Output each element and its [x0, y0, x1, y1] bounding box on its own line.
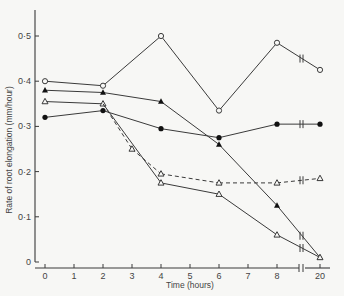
x-tick-label: 8 — [274, 271, 279, 281]
series-line — [161, 183, 219, 194]
series-line — [103, 104, 132, 149]
open-triangle-marker — [42, 98, 48, 103]
open-circle-marker — [158, 33, 163, 38]
series-0 — [42, 33, 322, 113]
open-circle-marker — [42, 79, 47, 84]
filled-circle-marker — [42, 115, 47, 120]
series-line — [103, 36, 161, 86]
y-tick-label: 0·4 — [18, 76, 31, 86]
series-line — [277, 43, 320, 70]
filled-circle-marker — [158, 126, 163, 131]
series-line — [219, 194, 277, 235]
open-circle-marker — [274, 40, 279, 45]
filled-circle-marker — [317, 122, 322, 127]
x-axis-title: Time (hours) — [166, 280, 214, 290]
y-tick-label: 0·2 — [18, 167, 31, 177]
series-line — [45, 102, 103, 104]
series-line — [45, 111, 103, 118]
series-line — [161, 174, 219, 183]
root-elongation-chart: 00·10·20·30·40·501234567820 Time (hours)… — [0, 0, 344, 296]
y-tick-label: 0 — [26, 257, 31, 267]
series-4 — [103, 104, 323, 185]
y-tick-label: 0·3 — [18, 121, 31, 131]
series-line — [219, 43, 277, 111]
filled-circle-marker — [274, 122, 279, 127]
filled-triangle-marker — [216, 141, 222, 146]
open-circle-marker — [100, 83, 105, 88]
x-tick-label: 4 — [158, 271, 163, 281]
axes: 00·10·20·30·40·501234567820 — [18, 10, 330, 281]
y-tick-label: 0·1 — [18, 212, 31, 222]
x-tick-label: 1 — [71, 271, 76, 281]
open-circle-marker — [216, 108, 221, 113]
series-3 — [42, 108, 322, 140]
x-tick-label: 2 — [100, 271, 105, 281]
series-line — [45, 90, 103, 92]
series-line — [103, 93, 161, 102]
y-tick-label: 0·5 — [18, 31, 31, 41]
filled-triangle-marker — [42, 87, 48, 92]
series-line — [103, 111, 161, 129]
series-line — [132, 149, 161, 174]
series-line — [277, 206, 320, 258]
open-triangle-marker — [274, 232, 280, 237]
series-2 — [42, 98, 323, 259]
open-circle-marker — [317, 67, 322, 72]
x-tick-label: 3 — [129, 271, 134, 281]
x-tick-label: 6 — [216, 271, 221, 281]
series-group — [42, 33, 323, 259]
filled-circle-marker — [100, 108, 105, 113]
x-tick-label: 7 — [245, 271, 250, 281]
series-line — [277, 235, 320, 258]
series-line — [103, 104, 161, 183]
filled-circle-marker — [216, 135, 221, 140]
series-line — [45, 81, 103, 86]
x-tick-label: 0 — [42, 271, 47, 281]
x-tick-label: 20 — [315, 271, 325, 281]
series-line — [277, 178, 320, 183]
series-line — [161, 102, 219, 145]
series-line — [219, 124, 277, 138]
open-triangle-marker — [317, 175, 323, 180]
series-line — [219, 144, 277, 205]
series-line — [161, 129, 219, 138]
y-axis-title: Rate of root elongation (mm/hour) — [4, 86, 14, 214]
series-line — [161, 36, 219, 111]
